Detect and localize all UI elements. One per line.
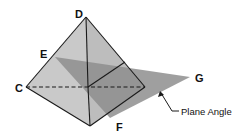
plane-angle-caption: Plane Angle <box>181 106 232 117</box>
label-g: G <box>195 72 204 84</box>
pyramid-diagram: D E C F G Plane Angle <box>0 0 251 140</box>
label-e: E <box>40 48 47 60</box>
label-f: F <box>116 121 123 133</box>
callout-leader <box>158 91 179 111</box>
label-d: D <box>75 8 83 20</box>
label-c: C <box>15 82 23 94</box>
diagram-canvas: D E C F G Plane Angle <box>0 0 251 140</box>
